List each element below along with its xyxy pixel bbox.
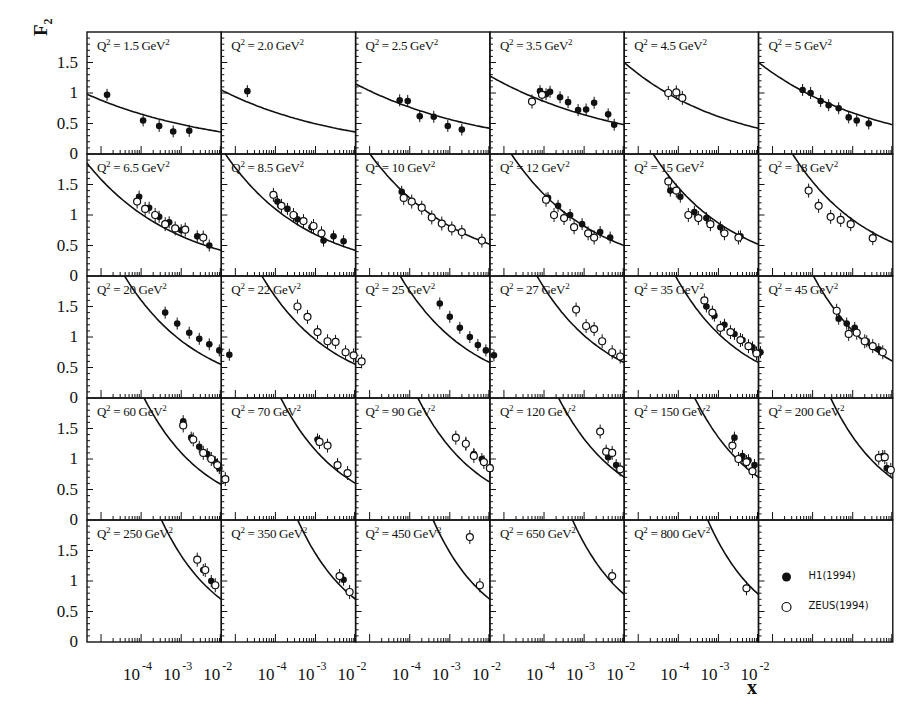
y-tick-label: 1 bbox=[48, 206, 78, 223]
panel-q2-label: Q2 = 70 GeV2 bbox=[231, 403, 300, 420]
zeus-data-point bbox=[861, 338, 868, 345]
panel-grid bbox=[0, 0, 919, 712]
zeus-data-point bbox=[539, 91, 546, 98]
h1-data-point bbox=[156, 123, 163, 130]
y-tick-label: 1 bbox=[48, 572, 78, 589]
y-tick-label: 1.5 bbox=[48, 54, 78, 71]
y-tick-label: 0.5 bbox=[48, 115, 78, 132]
h1-data-point bbox=[445, 123, 452, 130]
zeus-data-point bbox=[879, 349, 886, 356]
h1-data-point bbox=[475, 342, 482, 349]
panel-q2-label: Q2 = 35 GeV2 bbox=[634, 281, 703, 298]
h1-data-point bbox=[579, 221, 586, 228]
panel-q2-label: Q2 = 10 GeV2 bbox=[366, 159, 435, 176]
zeus-data-point bbox=[827, 213, 834, 220]
zeus-data-point bbox=[571, 224, 578, 231]
zeus-data-point bbox=[665, 178, 672, 185]
h1-legend-marker-icon bbox=[782, 573, 791, 582]
y-tick-label: 0 bbox=[48, 389, 78, 406]
zeus-data-point bbox=[745, 343, 752, 350]
zeus-data-point bbox=[318, 230, 325, 237]
zeus-data-point bbox=[735, 456, 742, 463]
h1-data-point bbox=[547, 88, 554, 95]
h1-data-point bbox=[206, 341, 213, 348]
zeus-data-point bbox=[583, 323, 590, 330]
fit-curve bbox=[221, 496, 355, 600]
zeus-data-point bbox=[342, 349, 349, 356]
zeus-data-point bbox=[300, 218, 307, 225]
zeus-data-point bbox=[208, 456, 215, 463]
fit-curve bbox=[759, 63, 893, 125]
y-tick-label: 0 bbox=[48, 511, 78, 528]
zeus-data-point bbox=[737, 337, 744, 344]
zeus-data-point bbox=[458, 229, 465, 236]
zeus-data-point bbox=[528, 98, 535, 105]
h1-data-point bbox=[817, 98, 824, 105]
zeus-data-point bbox=[470, 452, 477, 459]
panel-q2-label: Q2 = 150 GeV2 bbox=[634, 403, 710, 420]
h1-data-point bbox=[555, 203, 562, 210]
zeus-data-point bbox=[609, 573, 616, 580]
panel-q2-label: Q2 = 27 GeV2 bbox=[500, 281, 569, 298]
panel-frame bbox=[759, 520, 893, 642]
zeus-data-point bbox=[324, 338, 331, 345]
zeus-data-point bbox=[200, 234, 207, 241]
zeus-data-point bbox=[869, 343, 876, 350]
h1-data-point bbox=[677, 193, 684, 200]
zeus-data-point bbox=[717, 324, 724, 331]
zeus-data-point bbox=[591, 234, 598, 241]
fit-curve bbox=[624, 130, 758, 245]
zeus-data-point bbox=[805, 187, 812, 194]
panel-q2-label: Q2 = 120 GeV2 bbox=[500, 403, 576, 420]
fit-curve bbox=[356, 252, 490, 363]
zeus-data-point bbox=[743, 585, 750, 592]
zeus-data-point bbox=[845, 330, 852, 337]
h1-data-point bbox=[459, 126, 466, 133]
zeus-data-point bbox=[599, 338, 606, 345]
zeus-data-point bbox=[753, 350, 760, 357]
h1-data-point bbox=[186, 329, 193, 336]
fit-curve bbox=[490, 496, 624, 595]
panel-q2-label: Q2 = 20 GeV2 bbox=[97, 281, 166, 298]
h1-data-point bbox=[186, 128, 193, 135]
zeus-data-point bbox=[597, 428, 604, 435]
zeus-data-point bbox=[162, 221, 169, 228]
fit-curve bbox=[356, 496, 490, 600]
y-tick-label: 1.5 bbox=[48, 176, 78, 193]
panel-q2-label: Q2 = 18 GeV2 bbox=[769, 159, 838, 176]
y-tick-label: 0 bbox=[48, 633, 78, 650]
zeus-data-point bbox=[853, 329, 860, 336]
zeus-data-point bbox=[294, 303, 301, 310]
zeus-data-point bbox=[438, 220, 445, 227]
zeus-data-point bbox=[476, 582, 483, 589]
zeus-data-point bbox=[358, 358, 365, 365]
zeus-data-point bbox=[561, 215, 568, 222]
zeus-data-point bbox=[709, 309, 716, 316]
h1-data-point bbox=[206, 242, 213, 249]
y-tick-label: 0.5 bbox=[48, 481, 78, 498]
h1-data-point bbox=[557, 94, 564, 101]
x-tick-label: 10-3 bbox=[163, 658, 192, 683]
zeus-data-point bbox=[278, 202, 285, 209]
x-tick-label: 10-2 bbox=[338, 658, 367, 683]
x-tick-label: 10-2 bbox=[741, 658, 770, 683]
fit-curve bbox=[759, 130, 893, 243]
panel-q2-label: Q2 = 200 GeV2 bbox=[769, 403, 845, 420]
zeus-data-point bbox=[452, 434, 459, 441]
zeus-data-point bbox=[617, 466, 624, 473]
h1-data-point bbox=[196, 336, 203, 343]
h1-data-point bbox=[330, 233, 337, 240]
panel-q2-label: Q2 = 22 GeV2 bbox=[231, 281, 300, 298]
fit-curve bbox=[624, 252, 758, 363]
h1-data-point bbox=[216, 347, 223, 354]
panel-q2-label: Q2 = 8.5 GeV2 bbox=[231, 159, 303, 176]
panel-q2-label: Q2 = 45 GeV2 bbox=[769, 281, 838, 298]
zeus-data-point bbox=[350, 352, 357, 359]
zeus-data-point bbox=[673, 89, 680, 96]
panel-q2-label: Q2 = 4.5 GeV2 bbox=[634, 37, 706, 54]
zeus-data-point bbox=[847, 221, 854, 228]
y-tick-label: 0 bbox=[48, 145, 78, 162]
h1-data-point bbox=[565, 99, 572, 106]
h1-data-point bbox=[843, 320, 850, 327]
zeus-data-point bbox=[727, 329, 734, 336]
